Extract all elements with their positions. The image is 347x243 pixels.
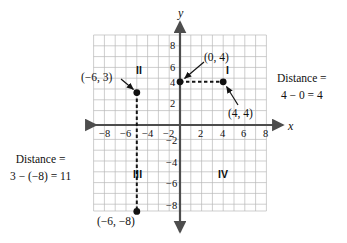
data-point-4-4 xyxy=(220,78,227,85)
leader-arrow-0-4 xyxy=(185,62,205,79)
xtick-label-8: 8 xyxy=(263,127,268,140)
ytick-label--6: −6 xyxy=(166,177,177,190)
data-point-neg6-3 xyxy=(133,89,140,96)
ytick-label-8: 8 xyxy=(170,39,175,52)
distance-left-line2: 3 − (−8) = 11 xyxy=(10,168,71,185)
xtick-label-2: 2 xyxy=(198,127,203,140)
distance-annotation-left: Distance = 3 − (−8) = 11 xyxy=(10,151,71,184)
quadrant-label-1: I xyxy=(226,64,229,77)
distance-annotation-right: Distance = 4 − 0 = 4 xyxy=(277,70,327,103)
distance-right-line1: Distance = xyxy=(277,70,327,87)
data-point-0-4 xyxy=(177,78,184,85)
xtick-label--4: −4 xyxy=(142,127,153,140)
leader-arrow-neg6-3 xyxy=(121,79,134,90)
ytick-label-4: 4 xyxy=(170,76,175,89)
quadrant-label-3: III xyxy=(133,168,142,181)
ytick-label--8: −8 xyxy=(166,199,177,212)
xtick-label--6: −6 xyxy=(120,127,131,140)
axis-label-x: x xyxy=(288,119,293,134)
axis-label-y: y xyxy=(178,6,183,21)
distance-right-line2: 4 − 0 = 4 xyxy=(277,87,327,104)
xtick-label--8: −8 xyxy=(99,127,110,140)
ytick-label--4: −4 xyxy=(166,156,177,169)
quadrant-label-4: IV xyxy=(218,168,228,181)
ytick-label-6: 6 xyxy=(170,61,175,74)
point-label-0-4: (0, 4) xyxy=(204,50,229,64)
point-label-4-4: (4, 4) xyxy=(228,106,253,120)
xtick-label-4: 4 xyxy=(220,127,225,140)
quadrant-label-2: II xyxy=(136,64,142,77)
point-label-neg6-3: (−6, 3) xyxy=(81,70,112,84)
distance-left-line1: Distance = xyxy=(10,151,71,168)
xtick-label-6: 6 xyxy=(241,127,246,140)
point-label-neg6-neg8: (−6, −8) xyxy=(97,214,135,228)
coordinate-plane-figure: y x −8 −6 −4 −2 2 4 6 8 8 6 4 2 −2 −4 −6… xyxy=(0,0,347,243)
ytick-label--2: −2 xyxy=(166,134,177,147)
ytick-label-2: 2 xyxy=(170,97,175,110)
